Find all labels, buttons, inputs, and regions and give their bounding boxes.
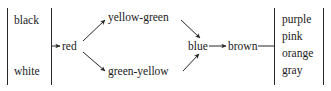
left-group-item-white: white (14, 65, 40, 77)
node-red: red (62, 40, 77, 52)
right-group-item-purple: purple (282, 13, 311, 25)
node-blue: blue (188, 40, 208, 52)
node-brown: brown (228, 40, 257, 52)
right-group-item-orange: orange (282, 47, 313, 59)
left-group-item-black: black (14, 14, 39, 26)
edge-red-to-green-yellow (83, 52, 105, 71)
color-transition-diagram: black white red yellow-green green-yello… (0, 0, 331, 91)
edge-yellow-green-to-blue (181, 20, 200, 38)
node-green-yellow: green-yellow (108, 65, 169, 77)
node-yellow-green: yellow-green (108, 11, 169, 23)
right-group-item-gray: gray (282, 64, 302, 76)
edge-red-to-yellow-green (83, 20, 105, 41)
right-group-item-pink: pink (282, 30, 302, 42)
edge-green-yellow-to-blue (183, 54, 199, 71)
